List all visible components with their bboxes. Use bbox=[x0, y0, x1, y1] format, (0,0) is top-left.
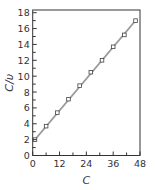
plot-frame bbox=[33, 10, 140, 156]
x-tick-label: 48 bbox=[134, 158, 146, 169]
data-point-marker bbox=[123, 33, 127, 37]
y-tick-label: 10 bbox=[18, 71, 30, 82]
x-tick-label: 36 bbox=[107, 158, 119, 169]
x-tick-label: 0 bbox=[30, 158, 36, 169]
y-tick-label: 2 bbox=[24, 134, 30, 145]
data-point-marker bbox=[100, 59, 104, 63]
data-point-marker bbox=[89, 70, 93, 74]
data-point-marker bbox=[55, 111, 59, 115]
linear-fit-line bbox=[35, 21, 136, 140]
x-axis-label: C bbox=[83, 174, 91, 187]
y-tick-label: 14 bbox=[18, 39, 30, 50]
x-tick-label: 12 bbox=[53, 158, 65, 169]
y-axis-label: C/υ bbox=[3, 74, 16, 92]
x-tick-label: 24 bbox=[80, 158, 92, 169]
data-point-marker bbox=[134, 19, 138, 23]
data-point-marker bbox=[111, 45, 115, 49]
data-point-marker bbox=[44, 124, 48, 128]
y-tick-label: 4 bbox=[24, 118, 30, 129]
x-axis-ticks: 012243648 bbox=[30, 152, 146, 169]
fit-line bbox=[35, 21, 136, 140]
data-point-marker bbox=[78, 84, 82, 88]
data-point-marker bbox=[67, 97, 71, 101]
y-tick-label: 8 bbox=[24, 87, 30, 98]
chart-canvas: 012243648 024681012141618 C C/υ bbox=[0, 0, 155, 190]
y-tick-label: 6 bbox=[24, 102, 30, 113]
y-tick-label: 0 bbox=[24, 150, 30, 161]
y-tick-label: 16 bbox=[18, 23, 30, 34]
y-tick-label: 12 bbox=[18, 55, 30, 66]
y-tick-label: 18 bbox=[18, 7, 30, 18]
